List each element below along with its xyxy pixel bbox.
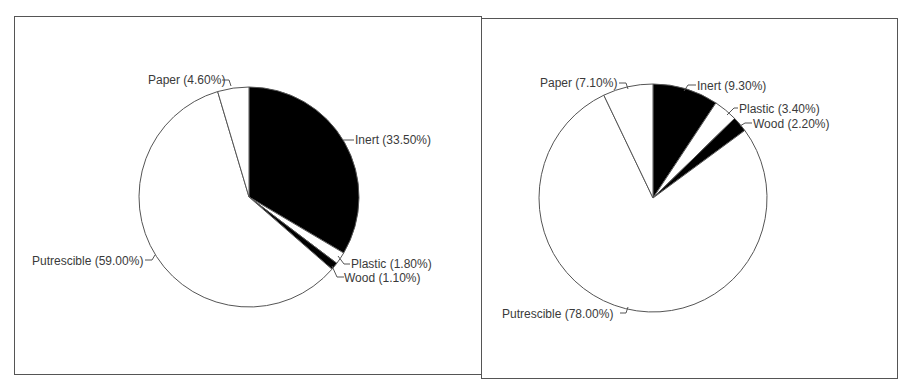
label-paper: Paper (4.60%) — [148, 73, 225, 87]
label-wood: Wood (2.20%) — [753, 117, 829, 131]
pie-charts-canvas: Paper (4.60%) Inert (33.50%) Plastic (1.… — [0, 0, 905, 392]
label-putrescible: Putrescible (78.00%) — [502, 307, 613, 321]
label-putrescible: Putrescible (59.00%) — [32, 254, 143, 268]
left-pie-chart — [139, 87, 359, 307]
label-paper: Paper (7.10%) — [540, 76, 617, 90]
leader-line-wood — [740, 123, 752, 126]
label-wood: Wood (1.10%) — [344, 271, 420, 285]
label-plastic: Plastic (1.80%) — [351, 257, 432, 271]
label-inert: Inert (33.50%) — [355, 133, 431, 147]
label-inert: Inert (9.30%) — [697, 79, 766, 93]
leader-line-plastic — [727, 108, 738, 115]
leader-line-putrescible — [145, 255, 155, 260]
label-plastic: Plastic (3.40%) — [739, 102, 820, 116]
right-pie-chart — [539, 84, 767, 312]
